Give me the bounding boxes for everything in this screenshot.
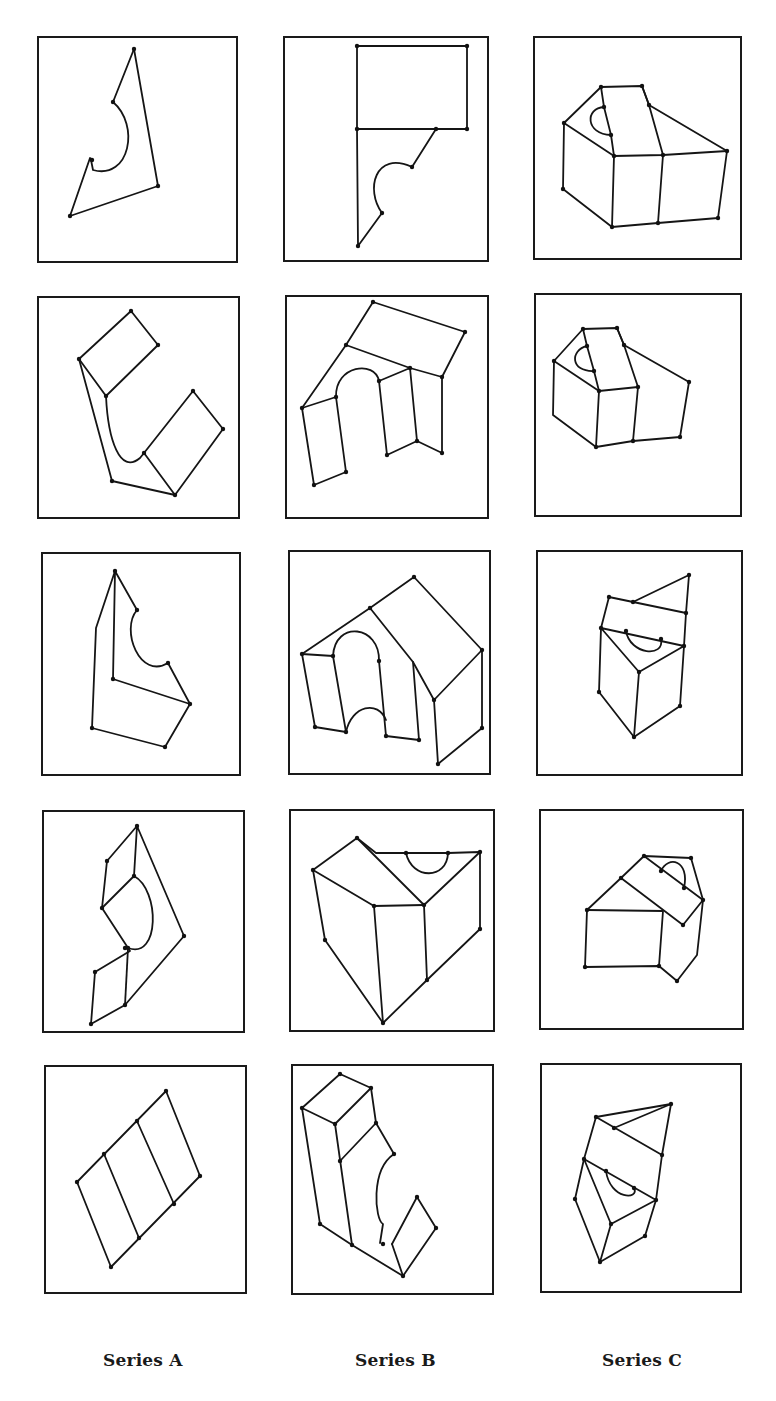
edge-line xyxy=(131,610,190,704)
wireframe-drawing-c3 xyxy=(537,551,742,775)
wireframe-drawing-a2 xyxy=(38,297,239,518)
panel-frame xyxy=(38,297,239,518)
panel-c4 xyxy=(540,810,743,1029)
vertex-dot xyxy=(135,1119,139,1123)
vertex-dot xyxy=(311,868,315,872)
vertex-dot xyxy=(678,435,682,439)
vertex-dot xyxy=(164,1089,168,1093)
edge-line xyxy=(302,345,442,485)
edge-line xyxy=(340,1088,376,1161)
edge-line xyxy=(614,1104,671,1128)
vertex-dot xyxy=(659,637,663,641)
panel-c2 xyxy=(535,294,741,516)
panel-frame xyxy=(535,294,741,516)
vertex-dot xyxy=(105,859,109,863)
vertex-dot xyxy=(656,221,660,225)
vertex-dot xyxy=(381,1242,385,1246)
vertex-dot xyxy=(104,394,108,398)
panel-a2 xyxy=(38,297,239,518)
panel-frame xyxy=(292,1065,493,1294)
vertex-dot xyxy=(581,327,585,331)
vertex-dot xyxy=(172,1202,176,1206)
vertex-dot xyxy=(188,702,192,706)
vertex-dot xyxy=(412,575,416,579)
vertex-dot xyxy=(636,385,640,389)
vertex-dot xyxy=(355,127,359,131)
edge-line xyxy=(601,87,614,156)
vertex-dot xyxy=(344,343,348,347)
vertex-dot xyxy=(725,149,729,153)
wireframe-drawing-c5 xyxy=(541,1064,741,1292)
edge-line xyxy=(553,328,689,447)
vertex-dot xyxy=(661,153,665,157)
vertex-dot xyxy=(384,734,388,738)
vertex-dot xyxy=(425,978,429,982)
vertex-dot xyxy=(687,573,691,577)
edge-line xyxy=(144,391,223,495)
vertex-dot xyxy=(659,869,663,873)
vertex-dot xyxy=(350,1243,354,1247)
vertex-dot xyxy=(381,1021,385,1025)
vertex-dot xyxy=(599,85,603,89)
vertex-dot xyxy=(716,216,720,220)
vertex-dot xyxy=(434,127,438,131)
vertex-dot xyxy=(643,1234,647,1238)
panel-a1 xyxy=(38,37,237,262)
vertex-dot xyxy=(404,851,408,855)
vertex-dot xyxy=(372,904,376,908)
edge-line xyxy=(102,876,153,949)
panel-frame xyxy=(42,553,240,775)
edge-line xyxy=(374,129,436,213)
vertex-dot xyxy=(598,1260,602,1264)
vertex-dot xyxy=(597,389,601,393)
vertex-dot xyxy=(156,343,160,347)
wireframe-drawing-b2 xyxy=(286,296,488,518)
vertex-dot xyxy=(166,661,170,665)
edge-line xyxy=(392,1197,417,1244)
vertex-dot xyxy=(609,1222,613,1226)
vertex-dot xyxy=(654,1198,658,1202)
vertex-dot xyxy=(75,1180,79,1184)
panel-frame xyxy=(284,37,488,261)
caption-series-c: Series C xyxy=(602,1350,682,1370)
panel-b4 xyxy=(290,810,494,1031)
vertex-dot xyxy=(585,908,589,912)
vertex-dot xyxy=(434,1226,438,1230)
vertex-dot xyxy=(682,886,686,890)
vertex-dot xyxy=(631,600,635,604)
vertex-dot xyxy=(89,1022,93,1026)
panel-b5 xyxy=(292,1065,493,1294)
vertex-dot xyxy=(182,934,186,938)
vertex-dot xyxy=(657,964,661,968)
vertex-dot xyxy=(594,445,598,449)
wireframe-drawing-b1 xyxy=(284,37,488,261)
vertex-dot xyxy=(585,344,589,348)
panel-frame xyxy=(43,811,244,1032)
vertex-dot xyxy=(597,690,601,694)
vertex-dot xyxy=(369,1086,373,1090)
vertex-dot xyxy=(356,244,360,248)
edge-line xyxy=(79,311,158,396)
vertex-dot xyxy=(90,158,94,162)
edge-line xyxy=(376,1154,394,1243)
vertex-dot xyxy=(561,187,565,191)
edge-line xyxy=(346,708,386,732)
vertex-dot xyxy=(93,970,97,974)
vertex-dot xyxy=(562,121,566,125)
vertex-dot xyxy=(684,611,688,615)
edge-line xyxy=(634,672,639,737)
vertex-dot xyxy=(129,309,133,313)
vertex-dot xyxy=(463,330,467,334)
vertex-dot xyxy=(612,154,616,158)
vertex-dot xyxy=(142,451,146,455)
vertex-dot xyxy=(573,1197,577,1201)
vertex-dot xyxy=(687,380,691,384)
panel-frame xyxy=(541,1064,741,1292)
vertex-dot xyxy=(371,300,375,304)
vertex-dot xyxy=(300,406,304,410)
vertex-dot xyxy=(198,1174,202,1178)
edge-line xyxy=(137,1121,174,1204)
edge-line xyxy=(357,46,467,129)
vertex-dot xyxy=(392,1152,396,1156)
vertex-dot xyxy=(417,738,421,742)
